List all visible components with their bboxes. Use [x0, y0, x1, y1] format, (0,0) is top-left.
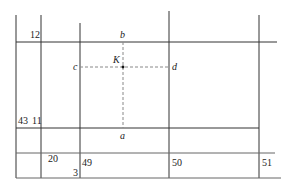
parcel-50: 50 [172, 157, 182, 168]
parcel-20: 20 [48, 153, 58, 164]
parcel-43: 43 [18, 115, 28, 126]
point-k-marker [122, 66, 125, 69]
point-label-k: K [112, 54, 121, 65]
parcel-51: 51 [262, 157, 272, 168]
cadastral-grid-diagram: 12 43 11 20 3 49 50 51 b a c d K [0, 0, 294, 191]
dashed-lines [80, 42, 169, 128]
point-label-a: a [120, 130, 125, 141]
point-label-b: b [120, 29, 125, 40]
point-label-c: c [73, 61, 78, 72]
parcel-49: 49 [82, 157, 92, 168]
parcel-3: 3 [73, 167, 78, 178]
point-label-d: d [172, 61, 178, 72]
parcel-12: 12 [30, 29, 40, 40]
parcel-11: 11 [32, 115, 42, 126]
